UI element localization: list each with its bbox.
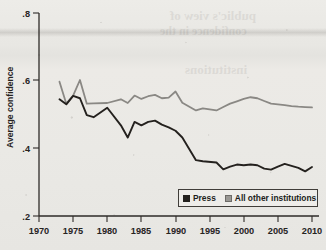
x-tick-label-2010: 2010 (302, 226, 322, 236)
x-tick-label-1970: 1970 (29, 226, 49, 236)
y-axis-label: Average confidence (5, 66, 15, 148)
y-tick-label-0: .8 (22, 9, 30, 19)
legend-label-all-other-institutions: All other institutions (235, 194, 316, 202)
x-tick-label-1990: 1990 (166, 226, 186, 236)
legend-swatch-press-icon (183, 195, 190, 202)
plot-area: Average confidence .8 .6 .4 .2 (0, 0, 326, 250)
chart-figure: public's view of confidence in the insti… (0, 0, 326, 250)
x-axis-ticks: 1970 1975 1980 1985 1990 1995 2000 2005 … (29, 216, 322, 236)
x-tick-label-1975: 1975 (63, 226, 83, 236)
legend-entry-press: Press (183, 194, 216, 202)
y-tick-label-3: .2 (22, 212, 30, 222)
x-tick-label-2000: 2000 (234, 226, 254, 236)
x-tick-label-1995: 1995 (200, 226, 220, 236)
y-axis-ticks: .8 .6 .4 .2 (22, 9, 39, 222)
x-tick-label-2005: 2005 (268, 226, 288, 236)
legend-entry-all-other-institutions: All other institutions (225, 194, 316, 202)
chart-legend: Press All other institutions (178, 189, 318, 207)
x-tick-label-1985: 1985 (131, 226, 151, 236)
x-tick-label-1980: 1980 (97, 226, 117, 236)
y-tick-label-2: .4 (22, 144, 31, 154)
legend-swatch-other-icon (225, 195, 232, 202)
series-line-all-other-institutions (59, 80, 312, 110)
series-line-press (59, 96, 312, 171)
legend-label-press: Press (193, 194, 216, 202)
y-tick-label-1: .6 (22, 76, 30, 86)
